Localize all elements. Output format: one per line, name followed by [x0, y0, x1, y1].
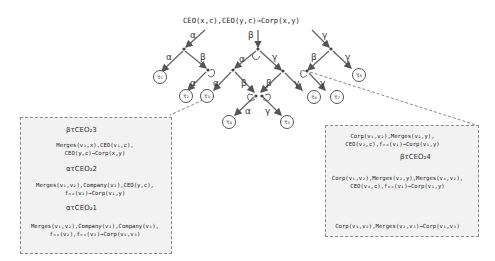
- leaf-tau-2: τ₂: [179, 89, 193, 103]
- leaf-tau-4: τ₄: [222, 115, 236, 129]
- edge-label-alpha: α: [190, 79, 196, 88]
- left-step-1: βτCEO₂3: [66, 127, 97, 134]
- edge-label-gamma: γ: [265, 107, 270, 116]
- edge-label-beta: β: [248, 31, 254, 40]
- edge-label-alpha: α: [166, 53, 172, 62]
- edge-label-gamma: γ: [320, 79, 325, 88]
- edge-label-beta: β: [266, 79, 272, 88]
- leaf-tau-8: τ₈: [352, 68, 366, 82]
- leaf-tau-7: τ₇: [330, 90, 344, 104]
- edge-label-alpha: α: [190, 31, 196, 40]
- edge-label-alpha: α: [213, 79, 219, 88]
- edge-label-alpha: α: [245, 107, 251, 116]
- edge-label-gamma: γ: [322, 31, 327, 40]
- edge-label-gamma: γ: [294, 79, 299, 88]
- edge-label-beta: β: [311, 53, 317, 62]
- edge-label-gamma: γ: [272, 53, 277, 62]
- root-rule: CEO(x,c),CEO(y,c)→Corp(x,y): [183, 17, 300, 24]
- left-expr-2: Merges(v₁,v₂),Company(v₂),CEO(y,c), fₙₒ(…: [20, 181, 170, 197]
- edge-label-beta: β: [241, 79, 247, 88]
- left-step-3: ατCEO₂1: [66, 205, 97, 212]
- leaf-tau-3: τ₃: [200, 89, 214, 103]
- edge-label-alpha: α: [239, 55, 245, 64]
- right-step-1: βτCEO₂4: [400, 154, 431, 161]
- left-expr-3: Merges(v₁,v₂),Company(v₂),Company(v₃), f…: [20, 222, 170, 238]
- leaf-tau-6: τ₆: [307, 90, 321, 104]
- leaf-tau-5: τ₅: [280, 115, 294, 129]
- leaf-tau-1: τ₁: [153, 70, 167, 84]
- right-expr-1: Corp(v₁,v₂),Merges(v₂,y), CEO(v₂,c),fₙₒ(…: [325, 132, 460, 148]
- edge-label-beta: β: [200, 53, 206, 62]
- edge-label-gamma: γ: [345, 53, 350, 62]
- left-expr-1: Merges(v₁,x),CEO(v₁,c), CEO(y,c)→Corp(x,…: [20, 141, 170, 157]
- right-expr-2: Corp(v₁,v₂),Merges(v₂,y),Merges(v₄,v₂), …: [325, 174, 470, 190]
- left-step-2: ατCEO₂2: [66, 166, 97, 173]
- right-expr-3: Corp(v₁,v₂),Merges(v₂,v₃)→Corp(v₁,v₃): [325, 222, 470, 230]
